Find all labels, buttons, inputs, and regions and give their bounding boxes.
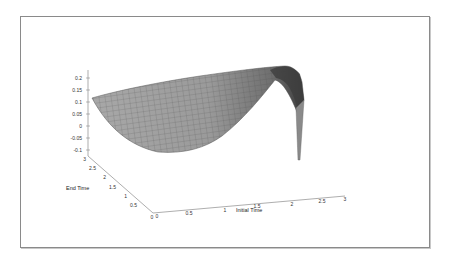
y-tick-label: 1: [124, 193, 127, 199]
x-tick-label: 0: [156, 213, 159, 219]
y-tick-label: 0.5: [130, 202, 137, 208]
x-tick-label: 2.5: [319, 198, 326, 204]
y-tick-label: 3: [83, 156, 86, 162]
y-tick-label: 2: [103, 174, 106, 180]
surface-mesh: [92, 66, 304, 160]
z-tick-label: 0.2: [75, 75, 82, 81]
x-axis: 0 0.5 1 1.5 2 2.5 3 Initial Time: [153, 196, 347, 219]
z-tick-label: 0.05: [72, 111, 82, 117]
z-axis: 0.2 0.15 0.1 0.05 0 -0.05 -0.1: [71, 70, 90, 156]
x-axis-title: Initial Time: [236, 207, 262, 213]
x-tick-label: 0.5: [186, 210, 193, 216]
z-tick-label: -0.1: [73, 147, 82, 153]
x-tick-label: 3: [344, 196, 347, 202]
y-tick-label: 1.5: [109, 184, 116, 190]
z-tick-label: 0.1: [75, 99, 82, 105]
z-tick-label: 0.15: [72, 87, 82, 93]
y-axis: 3 2.5 2 1.5 1 0.5 0 End Time: [66, 156, 154, 220]
y-tick-label: 2.5: [89, 165, 96, 171]
x-tick-label: 1: [224, 207, 227, 213]
surface-plot: 0.2 0.15 0.1 0.05 0 -0.05 -0.1 3 2.5 2 1…: [0, 0, 450, 263]
x-tick-label: 2: [291, 201, 294, 207]
y-tick-label: 0: [151, 214, 154, 220]
z-tick-label: 0: [79, 123, 82, 129]
y-axis-title: End Time: [66, 185, 89, 191]
z-tick-label: -0.05: [71, 135, 83, 141]
